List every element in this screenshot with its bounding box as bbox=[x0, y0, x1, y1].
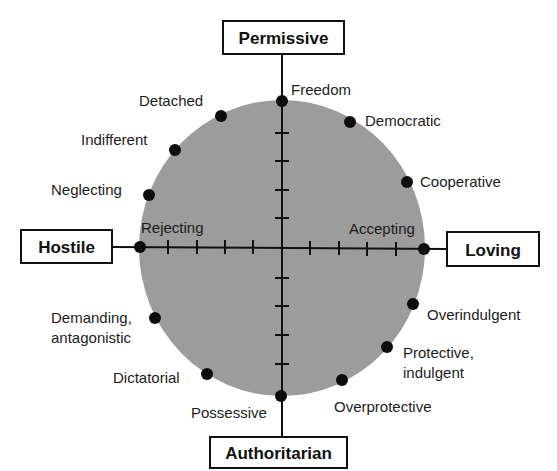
axis-box-hostile: Hostile bbox=[21, 230, 112, 263]
label-freedom: Freedom bbox=[291, 81, 351, 98]
svg-text:Permissive: Permissive bbox=[239, 29, 329, 48]
label-neglecting: Neglecting bbox=[51, 181, 122, 198]
label-detached: Detached bbox=[139, 92, 203, 109]
svg-text:Loving: Loving bbox=[465, 241, 521, 260]
dot-demanding-antagonistic bbox=[149, 312, 161, 324]
dot-possessive bbox=[275, 390, 287, 402]
svg-text:Authoritarian: Authoritarian bbox=[225, 444, 332, 463]
dot-overprotective bbox=[336, 374, 348, 386]
label-antagonistic: antagonistic bbox=[51, 329, 132, 346]
axis-box-loving: Loving bbox=[447, 232, 539, 266]
label-protective: Protective, bbox=[403, 344, 474, 361]
dot-neglecting bbox=[143, 189, 155, 201]
dot-accepting bbox=[418, 243, 430, 255]
label-possessive: Possessive bbox=[191, 404, 267, 421]
axis-box-authoritarian: Authoritarian bbox=[210, 437, 347, 468]
dot-freedom bbox=[276, 95, 288, 107]
label-overindulgent: Overindulgent bbox=[427, 306, 521, 323]
label-indifferent: Indifferent bbox=[81, 131, 148, 148]
dot-protective-indulgent bbox=[381, 341, 393, 353]
label-cooperative: Cooperative bbox=[420, 173, 501, 190]
label-rejecting: Rejecting bbox=[141, 219, 204, 236]
axis-box-permissive: Permissive bbox=[223, 21, 344, 54]
svg-text:Hostile: Hostile bbox=[38, 238, 95, 257]
label-accepting: Accepting bbox=[349, 220, 415, 237]
dot-indifferent bbox=[169, 144, 181, 156]
label-democratic: Democratic bbox=[365, 112, 441, 129]
dot-dictatorial bbox=[201, 368, 213, 380]
label-overprotective: Overprotective bbox=[334, 398, 432, 415]
dot-detached bbox=[215, 110, 227, 122]
circumplex-diagram: Permissive Hostile Loving Authoritarian … bbox=[0, 0, 557, 471]
dot-rejecting bbox=[134, 241, 146, 253]
dot-democratic bbox=[344, 116, 356, 128]
label-indulgent: indulgent bbox=[403, 364, 465, 381]
label-demanding: Demanding, bbox=[51, 309, 132, 326]
dot-cooperative bbox=[401, 176, 413, 188]
label-dictatorial: Dictatorial bbox=[113, 369, 180, 386]
dot-overindulgent bbox=[407, 298, 419, 310]
